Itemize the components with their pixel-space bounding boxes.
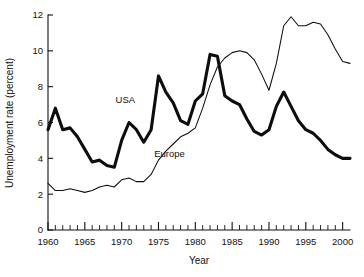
series-line-usa: [48, 54, 350, 167]
x-tick-label-1990: 1990: [258, 236, 279, 247]
unemployment-rate-figure: 024681012 196019651970197519801985199019…: [0, 0, 364, 277]
y-tick-label-2: 2: [38, 189, 43, 200]
x-tick-label-1980: 1980: [185, 236, 206, 247]
y-tick-label-4: 4: [38, 153, 43, 164]
x-tick-label-1970: 1970: [111, 236, 132, 247]
x-tick-label-1995: 1995: [295, 236, 316, 247]
y-axis-title: Unemployment rate (percent): [4, 58, 15, 188]
x-tick-label-1960: 1960: [37, 236, 58, 247]
x-tick-label-1965: 1965: [74, 236, 95, 247]
chart-canvas: 024681012 196019651970197519801985199019…: [0, 0, 364, 277]
series-line-europe: [48, 17, 350, 193]
y-tick-label-6: 6: [38, 117, 43, 128]
series-label-usa: USA: [116, 94, 136, 105]
series-label-europe: Europe: [154, 148, 185, 159]
x-tick-label-1975: 1975: [148, 236, 169, 247]
y-tick-label-10: 10: [32, 45, 43, 56]
x-tick-label-2000: 2000: [332, 236, 353, 247]
x-tick-label-1985: 1985: [222, 236, 243, 247]
x-axis-title: Year: [189, 255, 210, 266]
x-axis-major-ticks: 196019651970197519801985199019952000: [37, 222, 353, 247]
y-tick-label-8: 8: [38, 81, 43, 92]
y-tick-label-12: 12: [32, 9, 43, 20]
y-tick-label-0: 0: [38, 224, 43, 235]
